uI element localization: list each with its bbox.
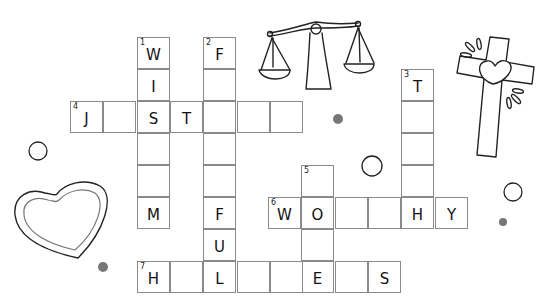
crossword-cell-clue-3[interactable]: 3T bbox=[401, 69, 434, 101]
crossword-cell[interactable] bbox=[170, 261, 203, 293]
clue-number: 3 bbox=[404, 70, 409, 79]
cell-letter: W bbox=[277, 206, 292, 224]
cell-letter: U bbox=[214, 238, 225, 256]
crossword-cell[interactable] bbox=[203, 101, 236, 133]
cell-letter: M bbox=[147, 206, 160, 224]
cell-letter: F bbox=[215, 46, 224, 64]
cell-letter: T bbox=[413, 78, 422, 96]
cell-letter: S bbox=[380, 270, 390, 288]
crossword-cell[interactable]: E bbox=[301, 261, 334, 293]
crossword-cell[interactable] bbox=[137, 165, 170, 197]
cell-letter: T bbox=[182, 110, 191, 128]
crossword-cell[interactable]: Y bbox=[435, 197, 468, 229]
crossword-cell[interactable]: U bbox=[203, 229, 236, 261]
crossword-cell[interactable]: L bbox=[203, 261, 236, 293]
crossword-cell[interactable] bbox=[401, 101, 434, 133]
crossword-cell[interactable] bbox=[335, 197, 368, 229]
crossword-cell[interactable]: T bbox=[170, 101, 203, 133]
crossword-cell[interactable]: M bbox=[137, 197, 170, 229]
cell-letter: Y bbox=[447, 206, 456, 224]
cell-letter: J bbox=[84, 110, 88, 128]
crossword-cell[interactable] bbox=[301, 229, 334, 261]
crossword-cell[interactable] bbox=[368, 197, 401, 229]
cell-letter: L bbox=[215, 270, 223, 288]
cell-letter: H bbox=[412, 206, 423, 224]
clue-number: 7 bbox=[140, 262, 145, 271]
crossword-cell[interactable]: H bbox=[401, 197, 434, 229]
cell-letter: O bbox=[312, 206, 324, 224]
clue-number: 5 bbox=[304, 166, 309, 175]
crossword-cell-clue-7[interactable]: 7H bbox=[137, 261, 170, 293]
cell-letter: H bbox=[148, 270, 159, 288]
cell-letter: S bbox=[149, 110, 159, 128]
crossword-cell[interactable] bbox=[137, 133, 170, 165]
crossword-cell[interactable] bbox=[401, 165, 434, 197]
cell-letter: I bbox=[151, 78, 155, 96]
crossword-cell-clue-1[interactable]: 1W bbox=[137, 37, 170, 69]
crossword-cell[interactable]: O bbox=[301, 197, 334, 229]
crossword-cell-clue-2[interactable]: 2F bbox=[203, 37, 236, 69]
clue-number: 1 bbox=[140, 38, 145, 47]
crossword-cell[interactable] bbox=[203, 165, 236, 197]
crossword-cell[interactable] bbox=[203, 133, 236, 165]
crossword-cell[interactable] bbox=[270, 101, 303, 133]
cell-letter: E bbox=[313, 270, 322, 288]
crossword-cell[interactable] bbox=[237, 261, 270, 293]
crossword-cell-clue-4[interactable]: 4J bbox=[70, 101, 103, 133]
crossword-grid: 1WISM2FFUL3TH4JT5OE6WY7HS bbox=[0, 0, 547, 307]
crossword-cell[interactable] bbox=[270, 261, 303, 293]
crossword-cell[interactable]: S bbox=[368, 261, 401, 293]
crossword-cell[interactable] bbox=[335, 261, 368, 293]
crossword-cell[interactable] bbox=[401, 133, 434, 165]
cell-letter: W bbox=[146, 46, 161, 64]
clue-number: 4 bbox=[73, 102, 78, 111]
crossword-cell[interactable] bbox=[203, 69, 236, 101]
crossword-cell-clue-6[interactable]: 6W bbox=[268, 197, 301, 229]
crossword-cell[interactable] bbox=[237, 101, 270, 133]
crossword-cell[interactable]: F bbox=[203, 197, 236, 229]
clue-number: 6 bbox=[271, 198, 276, 207]
crossword-cell[interactable]: I bbox=[137, 69, 170, 101]
crossword-cell-clue-5[interactable]: 5 bbox=[301, 165, 334, 197]
crossword-cell[interactable] bbox=[103, 101, 136, 133]
crossword-cell[interactable]: S bbox=[137, 101, 170, 133]
cell-letter: F bbox=[215, 206, 224, 224]
clue-number: 2 bbox=[206, 38, 211, 47]
